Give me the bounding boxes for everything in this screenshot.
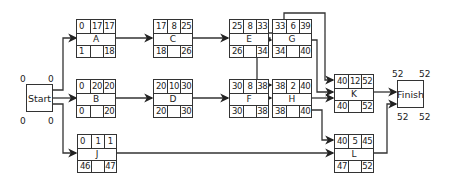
lf: 26	[181, 45, 192, 57]
activity-node-h: 38240 H 3840	[272, 79, 312, 118]
es: 0	[77, 80, 91, 93]
ls: 1	[77, 45, 91, 57]
es: 40	[335, 75, 349, 88]
ef: 1	[105, 135, 116, 148]
lf: 47	[105, 160, 116, 172]
activity-name: F	[246, 93, 251, 105]
ef: 45	[362, 135, 373, 148]
activity-node-e: 25833 E 2634	[229, 19, 269, 58]
slack-cell	[92, 160, 104, 172]
ls: 47	[335, 160, 349, 172]
ls: 34	[273, 45, 287, 57]
activity-node-c: 17825 C 1826	[153, 19, 193, 58]
slack-cell	[349, 160, 361, 172]
activity-name: G	[289, 33, 296, 45]
ls: 0	[77, 105, 91, 117]
ef: 39	[300, 20, 311, 33]
duration: 8	[244, 20, 256, 33]
lf: 40	[300, 105, 311, 117]
lf: 18	[104, 45, 115, 57]
network-diagram: Start 0 0 0 0 Finish 52 52 52 52 01717 A…	[0, 0, 451, 188]
slack-cell	[287, 105, 299, 117]
es: 17	[154, 20, 168, 33]
slack-cell	[287, 45, 299, 57]
ef: 38	[257, 80, 268, 93]
activity-name: B	[93, 93, 99, 105]
slack-cell	[244, 105, 256, 117]
duration: 1	[92, 135, 104, 148]
ls: 20	[154, 105, 168, 117]
ef: 40	[300, 80, 311, 93]
start-label: Start	[28, 93, 51, 104]
es: 0	[78, 135, 92, 148]
activity-node-g: 33639 G 3440	[272, 19, 312, 58]
duration: 17	[91, 20, 103, 33]
es: 20	[154, 80, 168, 93]
lf: 52	[362, 160, 373, 172]
lf: 38	[257, 105, 268, 117]
slack-cell	[244, 45, 256, 57]
activity-name: J	[96, 148, 99, 160]
ef: 52	[362, 75, 373, 88]
finish-ls: 52	[397, 112, 408, 122]
ls: 30	[230, 105, 244, 117]
start-node: Start	[26, 84, 53, 112]
ls: 40	[335, 100, 349, 112]
es: 33	[273, 20, 287, 33]
finish-lf: 52	[419, 112, 430, 122]
activity-name: D	[170, 93, 177, 105]
slack-cell	[168, 105, 180, 117]
start-es: 0	[20, 74, 26, 84]
ls: 46	[78, 160, 92, 172]
finish-es: 52	[392, 69, 403, 79]
duration: 10	[168, 80, 180, 93]
activity-node-b: 02020 B 020	[76, 79, 116, 118]
ls: 38	[273, 105, 287, 117]
start-ef: 0	[48, 74, 54, 84]
lf: 20	[104, 105, 115, 117]
finish-node: Finish	[397, 80, 424, 108]
connector-arrows	[0, 0, 451, 188]
es: 40	[335, 135, 349, 148]
activity-name: E	[246, 33, 252, 45]
activity-node-f: 30838 F 3038	[229, 79, 269, 118]
es: 38	[273, 80, 287, 93]
duration: 8	[244, 80, 256, 93]
lf: 30	[181, 105, 192, 117]
duration: 5	[349, 135, 361, 148]
duration: 12	[349, 75, 361, 88]
ef: 33	[257, 20, 268, 33]
es: 30	[230, 80, 244, 93]
activity-node-l: 40545 L 4752	[334, 134, 374, 173]
slack-cell	[91, 45, 103, 57]
ls: 26	[230, 45, 244, 57]
start-lf: 0	[48, 116, 54, 126]
finish-label: Finish	[397, 89, 424, 100]
activity-name: H	[289, 93, 296, 105]
slack-cell	[91, 105, 103, 117]
lf: 34	[257, 45, 268, 57]
start-ls: 0	[20, 116, 26, 126]
duration: 6	[287, 20, 299, 33]
ls: 18	[154, 45, 168, 57]
duration: 20	[91, 80, 103, 93]
activity-name: A	[93, 33, 99, 45]
duration: 2	[287, 80, 299, 93]
slack-cell	[349, 100, 361, 112]
finish-ef: 52	[419, 69, 430, 79]
lf: 52	[362, 100, 373, 112]
activity-name: K	[351, 88, 357, 100]
ef: 25	[181, 20, 192, 33]
es: 0	[77, 20, 91, 33]
activity-node-k: 401252 K 4052	[334, 74, 374, 113]
ef: 20	[104, 80, 115, 93]
ef: 30	[181, 80, 192, 93]
activity-name: C	[170, 33, 176, 45]
slack-cell	[168, 45, 180, 57]
lf: 40	[300, 45, 311, 57]
activity-name: L	[351, 148, 356, 160]
ef: 17	[104, 20, 115, 33]
activity-node-a: 01717 A 118	[76, 19, 116, 58]
es: 25	[230, 20, 244, 33]
activity-node-j: 011 J 4647	[77, 134, 117, 173]
